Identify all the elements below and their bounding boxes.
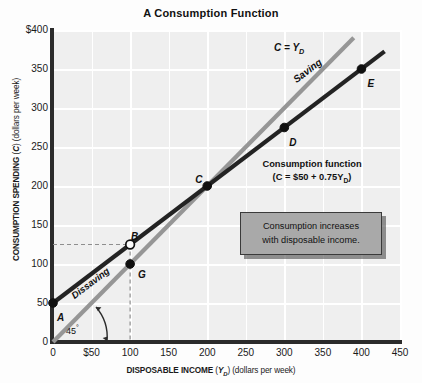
point-label-g: G	[138, 269, 146, 280]
consumption-function-label: Consumption function (C = $50 + 0.75YD)	[228, 158, 396, 184]
consumption-function-label-line1: Consumption function	[228, 158, 396, 171]
callout-box: Consumption increases with disposable in…	[240, 212, 382, 255]
point-label-c: C	[195, 174, 202, 185]
data-lines	[53, 38, 385, 342]
point-label-d: D	[289, 137, 296, 148]
point-label-b: B	[131, 231, 138, 242]
point-label-e: E	[367, 78, 374, 89]
consumption-function-label-line2: (C = $50 + 0.75YD)	[228, 171, 396, 185]
data-point-d	[280, 123, 289, 132]
data-point-e	[357, 65, 366, 74]
callout-text: Consumption increases with disposable in…	[262, 220, 360, 247]
data-point-a	[49, 299, 58, 308]
angle-arc-arrow	[96, 307, 108, 341]
consumption-function-figure: A Consumption Function 05010015020025030…	[0, 0, 422, 383]
chart-vector-overlay	[0, 0, 422, 383]
data-point-c	[203, 182, 212, 191]
callout-line-1: Consumption increases	[262, 220, 360, 233]
identity-line-label: C = YD	[274, 42, 304, 56]
angle-45-label: 45°	[66, 324, 79, 336]
point-label-a: A	[57, 312, 64, 323]
data-point-g	[126, 260, 135, 269]
callout-line-2: with disposable income.	[262, 234, 360, 247]
